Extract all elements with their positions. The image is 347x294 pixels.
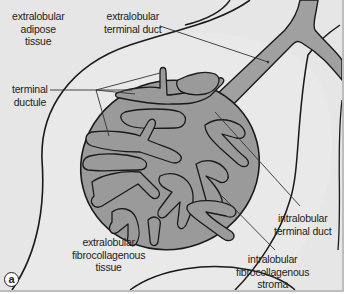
label-intralobular-fibrocollagenous-stroma: intralobular fibrocollagenous stroma [236,253,309,291]
label-extralobular-adipose-tissue: extralobular adipose tissue [12,10,64,48]
panel-letter-badge: a [4,272,19,287]
label-extralobular-fibrocollagenous-tissue: extralobular fibrocollagenous tissue [72,236,145,274]
label-terminal-ductule: terminal ductule [12,83,48,108]
diagram-frame: extralobular adipose tissue extralobular… [0,0,344,292]
label-extralobular-terminal-duct: extralobular terminal duct [104,10,162,35]
far-right-boundary [338,100,342,250]
label-intralobular-terminal-duct: intralobular terminal duct [274,212,332,237]
